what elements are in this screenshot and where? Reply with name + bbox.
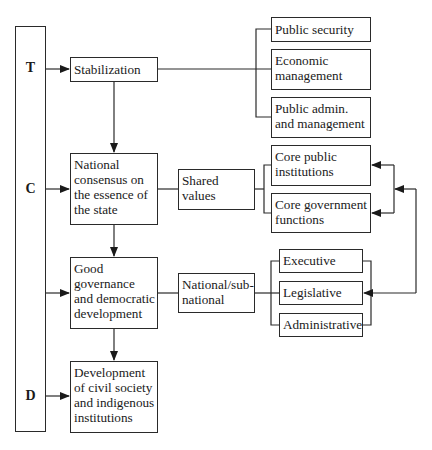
- good-governance-box: Good governance and democratic developme…: [70, 257, 158, 329]
- civil-society-box: Development of civil society and indigen…: [70, 361, 158, 433]
- public-admin-box: Public admin. and management: [271, 97, 371, 138]
- phase-label-d: D: [15, 388, 46, 404]
- legislative-box: Legislative: [279, 281, 363, 305]
- public-security-box: Public security: [271, 17, 371, 42]
- stabilization-box: Stabilization: [70, 57, 158, 82]
- national-subnational-box: National/sub-national: [178, 273, 255, 313]
- national-consensus-box: National consensus on the essence of the…: [70, 153, 158, 225]
- phase-label-t: T: [15, 60, 46, 76]
- administrative-box: Administrative: [279, 313, 363, 337]
- phase-label-c: C: [15, 181, 46, 197]
- core-government-functions-box: Core government functions: [271, 193, 371, 233]
- diagram-canvas: T C D Stabilization National consensus o…: [0, 0, 432, 450]
- core-public-institutions-box: Core public institutions: [271, 145, 371, 186]
- phase-bar: [15, 26, 46, 432]
- shared-values-box: Shared values: [178, 169, 255, 210]
- executive-box: Executive: [279, 249, 363, 273]
- economic-management-box: Economic management: [271, 49, 371, 90]
